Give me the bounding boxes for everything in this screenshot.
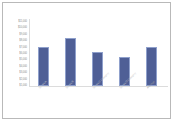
- y-axis-tick-9: $2,000: [19, 78, 27, 81]
- y-axis-tick-4: $7,000: [19, 46, 27, 49]
- y-axis-tick-5: $6,000: [19, 53, 27, 56]
- y-axis-tick-2: $9,000: [19, 34, 27, 37]
- y-axis-tick-3: $8,000: [19, 40, 27, 43]
- y-axis-tick-labels: $11,000 $10,000 $9,000 $8,000 $7,000 $6,…: [6, 21, 28, 87]
- plot-area: [29, 19, 168, 87]
- y-axis-tick-1: $10,000: [18, 27, 27, 30]
- y-axis-tick-10: $1,000: [19, 85, 27, 88]
- y-axis-tick-7: $4,000: [19, 66, 27, 69]
- y-axis-tick-6: $5,000: [19, 59, 27, 62]
- chart-frame: $11,000 $10,000 $9,000 $8,000 $7,000 $6,…: [2, 2, 171, 119]
- x-axis-tick-labels: Series A Series B Series C Category Seri…: [29, 88, 168, 122]
- bar-chart: $11,000 $10,000 $9,000 $8,000 $7,000 $6,…: [3, 3, 172, 120]
- y-axis-tick-8: $3,000: [19, 72, 27, 75]
- y-axis-tick-0: $11,000: [18, 21, 27, 24]
- bar-1[interactable]: [65, 38, 76, 86]
